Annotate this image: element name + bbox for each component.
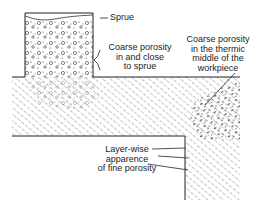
label-sprue: Sprue <box>110 13 134 23</box>
workpiece-body <box>12 77 240 200</box>
sprue <box>25 13 93 77</box>
label-coarse-sprue: Coarse porosity in and close to sprue <box>100 43 180 72</box>
label-coarse-thermic: Coarse porosity in the thermic middle of… <box>178 35 253 73</box>
label-layer-wise: Layer-wise apparence of fine porosity <box>93 145 161 174</box>
casting-diagram <box>0 0 253 215</box>
